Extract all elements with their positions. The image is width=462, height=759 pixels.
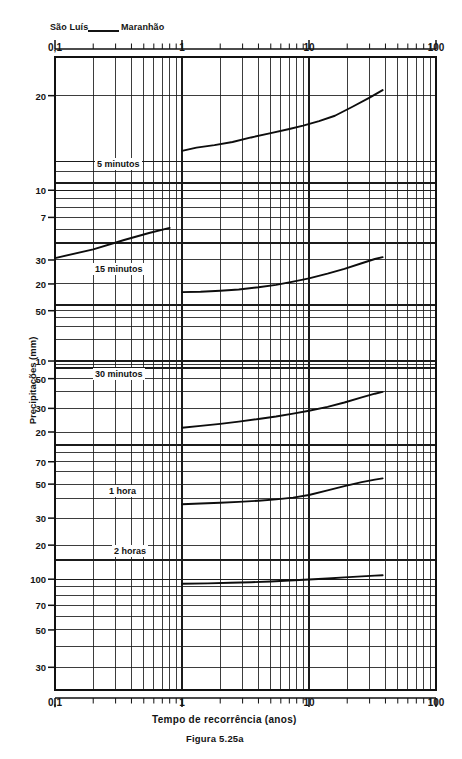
y-axis-tick-label: 20: [10, 90, 46, 101]
figure-container: São Luís Maranhão Precipitações (mm) Tem…: [0, 0, 462, 759]
y-axis-tick-label: 20: [10, 540, 46, 551]
x-axis-top-tick-label: 0,1: [41, 42, 69, 53]
y-axis-tick-label: 50: [10, 373, 46, 384]
y-axis-tick-label: 30: [10, 662, 46, 673]
y-axis-tick-label: 10: [10, 185, 46, 196]
y-axis-tick-label: 7: [10, 212, 46, 223]
y-axis-tick-label: 70: [10, 600, 46, 611]
y-axis-tick-label: 50: [10, 624, 46, 635]
x-axis-tick-label: 10: [295, 697, 323, 708]
y-axis-tick-label: 20: [10, 427, 46, 438]
y-axis-tick-label: 20: [10, 278, 46, 289]
curve-label-30-minutos: 30 minutos: [93, 368, 145, 380]
x-axis-top-tick-label: 10: [295, 42, 323, 53]
y-axis-tick-label: 100: [10, 574, 46, 585]
x-axis-tick-label: 100: [422, 697, 450, 708]
x-axis-top-tick-label: 100: [422, 42, 450, 53]
curve-label-5-minutos: 5 minutos: [95, 158, 142, 170]
y-axis-tick-label: 30: [10, 254, 46, 265]
y-axis-tick-label: 50: [10, 479, 46, 490]
curve-label-15-minutos: 15 minutos: [93, 263, 145, 275]
y-axis-tick-label: 50: [10, 305, 46, 316]
chart-plot-area: [0, 0, 462, 759]
curve-label-2-horas: 2 horas: [112, 545, 148, 557]
y-axis-tick-label: 70: [10, 456, 46, 467]
x-axis-top-tick-label: 1: [168, 42, 196, 53]
curve-label-1-hora: 1 hora: [107, 485, 138, 497]
y-axis-tick-label: 30: [10, 513, 46, 524]
x-axis-tick-label: 0,1: [41, 697, 69, 708]
y-axis-tick-label: 30: [10, 403, 46, 414]
x-axis-tick-label: 1: [168, 697, 196, 708]
y-axis-tick-label: 10: [10, 356, 46, 367]
